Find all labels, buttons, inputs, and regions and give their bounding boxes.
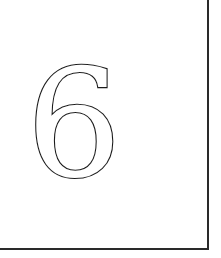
digit-text: 6 <box>26 37 121 211</box>
outlined-digit: 6 <box>0 0 207 248</box>
number-card: 6 <box>0 0 209 250</box>
